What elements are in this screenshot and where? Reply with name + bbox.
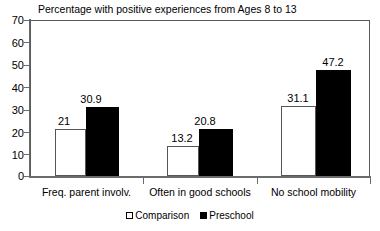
x-axis-category-label-1: Freq. parent involv. <box>30 186 143 198</box>
legend-label-preschool: Preschool <box>209 210 253 221</box>
y-axis-label-value: 10 <box>2 150 24 161</box>
bar-comparison-no-school-mobility <box>281 106 316 176</box>
chart-title: Percentage with positive experiences fro… <box>38 3 297 15</box>
bar-value-preschool-3: 47.2 <box>313 57 353 68</box>
y-axis-tick-label-60: 60 <box>0 38 24 49</box>
x-axis-tick-mark <box>370 178 371 184</box>
bar-comparison-freq-parent-involv <box>55 129 86 176</box>
bar-value-comparison-3: 31.1 <box>278 93 318 104</box>
y-axis-tick-label-0: 0 <box>0 171 24 182</box>
bar-value-comparison-2: 13.2 <box>162 133 202 144</box>
bar-comparison-often-in-good-schools <box>167 146 199 176</box>
y-axis-label-value: 70 <box>2 15 24 26</box>
open-square-marker-icon <box>126 212 133 219</box>
y-axis-tick-label-70: 70 <box>0 15 24 26</box>
y-axis-label-value: 50 <box>2 60 24 71</box>
legend-item-preschool: Preschool <box>200 210 253 221</box>
bar-preschool-often-in-good-schools <box>199 129 233 176</box>
filled-square-marker-icon <box>200 212 207 219</box>
y-axis-tick-label-40: 40 <box>0 83 24 94</box>
bar-preschool-no-school-mobility <box>316 70 351 176</box>
legend-label-comparison: Comparison <box>135 210 189 221</box>
x-axis-category-label-3: No school mobility <box>257 186 370 198</box>
y-axis-tick-label-20: 20 <box>0 128 24 139</box>
bar-value-preschool-1: 30.9 <box>71 94 111 105</box>
y-axis-tick-label-10: 10 <box>0 150 24 161</box>
x-axis-tick-mark <box>257 178 258 184</box>
bar-chart: 70 60 50 40 30 20 10 0 Percentage w <box>0 0 380 231</box>
bar-preschool-freq-parent-involv <box>86 107 119 176</box>
y-axis-label-value: 40 <box>2 83 24 94</box>
x-axis-line <box>30 176 371 178</box>
chart-legend: Comparison Preschool <box>0 210 380 221</box>
bar-value-preschool-2: 20.8 <box>185 116 225 127</box>
bar-value-comparison-1: 21 <box>44 116 84 127</box>
legend-item-comparison: Comparison <box>126 210 189 221</box>
y-axis-tick-label-50: 50 <box>0 60 24 71</box>
y-axis-label-value: 30 <box>2 105 24 116</box>
x-axis-category-label-2: Often in good schools <box>143 186 257 198</box>
y-axis-label-value: 0 <box>2 171 24 182</box>
y-axis-label-value: 20 <box>2 128 24 139</box>
y-axis-tick-label-30: 30 <box>0 105 24 116</box>
y-axis-label-value: 60 <box>2 38 24 49</box>
x-axis-tick-mark <box>143 178 144 184</box>
